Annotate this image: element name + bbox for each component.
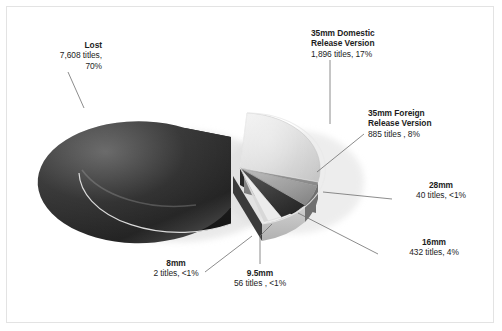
chart-canvas: Lost 7,608 titles, 70% 35mm Domestic Rel…: [0, 0, 502, 331]
label-16mm-value: 432 titles, 4%: [382, 247, 486, 257]
label-9p5mm-title: 9.5mm: [212, 268, 308, 278]
label-lost-title: Lost: [16, 40, 102, 50]
label-28mm-title: 28mm: [395, 180, 487, 190]
label-lost-percent: 70%: [16, 61, 102, 71]
leader-line-lost: [68, 72, 84, 108]
leader-line-8mm: [205, 236, 252, 272]
label-8mm-value: 2 titles, <1%: [140, 268, 212, 278]
label-35mm-foreign-value: 885 titles , 8%: [368, 129, 486, 139]
label-lost-value: 7,608 titles,: [16, 50, 102, 60]
pie-slice-lost-group: [38, 121, 231, 243]
label-35mm-foreign-title-1: 35mm Foreign: [368, 108, 486, 118]
label-35mm-domestic: 35mm Domestic Release Version 1,896 titl…: [311, 28, 431, 59]
label-35mm-foreign: 35mm Foreign Release Version 885 titles …: [368, 108, 486, 139]
label-28mm-value: 40 titles, <1%: [395, 190, 487, 200]
label-9p5mm-value: 56 titles , <1%: [212, 278, 308, 288]
label-35mm-domestic-value: 1,896 titles, 17%: [311, 49, 431, 59]
label-8mm: 8mm 2 titles, <1%: [140, 258, 212, 279]
label-35mm-foreign-title-2: Release Version: [368, 118, 486, 128]
label-9p5mm: 9.5mm 56 titles , <1%: [212, 268, 308, 289]
label-8mm-title: 8mm: [140, 258, 212, 268]
label-lost: Lost 7,608 titles, 70%: [16, 40, 102, 71]
label-35mm-domestic-title-1: 35mm Domestic: [311, 28, 431, 38]
slice-lost-top-gloss: [38, 121, 231, 243]
label-16mm-title: 16mm: [382, 237, 486, 247]
label-16mm: 16mm 432 titles, 4%: [382, 237, 486, 258]
label-35mm-domestic-title-2: Release Version: [311, 38, 431, 48]
label-28mm: 28mm 40 titles, <1%: [395, 180, 487, 201]
